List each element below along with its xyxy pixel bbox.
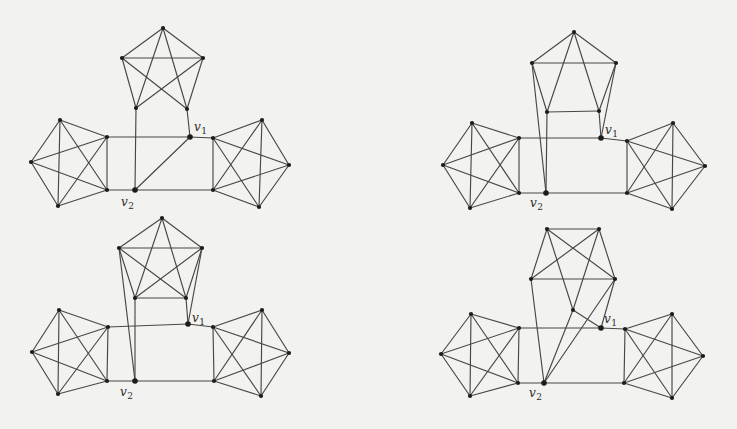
graph-node-rgt_lt xyxy=(623,327,627,331)
graph-edge xyxy=(544,279,615,383)
vertex-label-v2: v2 xyxy=(120,386,133,401)
graph-node-rgt_lb xyxy=(622,381,626,385)
graph-edge xyxy=(574,32,616,63)
graph-edge xyxy=(163,28,187,109)
graph-edge xyxy=(532,63,546,193)
graph-node-top_a xyxy=(572,30,576,34)
graph-edge xyxy=(262,120,289,165)
graph-edge xyxy=(213,190,259,207)
graph-node-rgt_r xyxy=(701,354,705,358)
graph-edge xyxy=(673,123,705,166)
graph-edge xyxy=(471,314,518,383)
graph-edge xyxy=(601,328,625,329)
graph-edge xyxy=(627,123,673,193)
graph-node-lft_rt xyxy=(517,136,521,140)
graph-node-top_tr xyxy=(597,227,601,231)
graph-node-top_ur xyxy=(201,56,205,60)
graph-edge xyxy=(672,123,673,209)
graph-edge xyxy=(213,327,289,353)
graph-edge xyxy=(472,123,519,138)
graph-edge xyxy=(59,310,108,327)
graph-edge xyxy=(31,162,107,190)
graph-edge xyxy=(441,354,518,383)
graph-edge xyxy=(546,112,547,193)
graph-node-rgt_t xyxy=(260,118,264,122)
vertex-label-v1: v1 xyxy=(605,124,618,139)
graph-node-rgt_lb xyxy=(625,191,629,195)
graph-edge xyxy=(119,248,186,298)
graph-node-top_lr xyxy=(185,107,189,111)
graph-edge xyxy=(672,166,705,209)
graph-node-v2 xyxy=(541,380,547,386)
graph-edge xyxy=(624,314,672,383)
graph-edge xyxy=(624,329,625,383)
graph-node-top_ur xyxy=(200,246,204,250)
graph-figure-4 xyxy=(439,227,705,400)
graph-edge xyxy=(213,138,259,207)
graph-edge xyxy=(441,354,470,396)
graph-edge xyxy=(122,28,163,58)
graph-edge xyxy=(625,329,703,356)
graph-edge xyxy=(214,381,261,396)
graph-node-rgt_r xyxy=(703,164,707,168)
graph-edge xyxy=(60,120,107,137)
vertex-label-v1: v1 xyxy=(192,312,205,327)
graph-node-v1 xyxy=(598,325,604,331)
vertex-label-v2: v2 xyxy=(529,387,542,402)
graph-edge xyxy=(441,328,519,354)
graph-edge xyxy=(58,137,107,206)
graph-edge xyxy=(470,138,519,208)
graph-node-top_ll xyxy=(134,106,138,110)
graph-node-lft_rb xyxy=(516,381,520,385)
graph-edge xyxy=(441,314,471,354)
graph-figure-2 xyxy=(441,30,707,211)
graph-edge xyxy=(32,327,108,352)
graph-edge xyxy=(443,138,519,165)
graph-edge xyxy=(625,314,672,329)
graph-node-lft_t xyxy=(58,118,62,122)
graph-edge xyxy=(59,310,107,381)
graph-node-rgt_b xyxy=(257,205,261,209)
graph-edge xyxy=(31,137,107,162)
graph-node-v2 xyxy=(543,190,549,196)
diagram-canvas xyxy=(0,0,737,429)
graph-node-top_a xyxy=(160,216,164,220)
graph-node-rgt_lt xyxy=(625,139,629,143)
graph-node-lft_rb xyxy=(517,191,521,195)
graph-node-top_ll xyxy=(133,296,137,300)
graph-node-rgt_lb xyxy=(211,188,215,192)
graph-node-rgt_lt xyxy=(211,136,215,140)
graph-edge xyxy=(213,138,289,165)
graph-edge xyxy=(119,248,135,298)
graph-edge xyxy=(547,229,615,279)
graph-edge xyxy=(470,193,519,208)
vertex-label-v2: v2 xyxy=(530,197,543,212)
graph-node-lft_b xyxy=(56,392,60,396)
graph-edge xyxy=(162,218,202,248)
graph-edge xyxy=(531,229,547,279)
graph-edge xyxy=(213,120,262,190)
graph-node-top_ul xyxy=(530,61,534,65)
graph-node-lft_rt xyxy=(517,326,521,330)
graph-edge xyxy=(31,120,60,162)
graph-node-lft_l xyxy=(30,350,34,354)
graph-edge xyxy=(187,58,203,109)
graph-edge xyxy=(574,32,599,111)
graph-node-c xyxy=(571,308,575,312)
graph-node-top_bl xyxy=(529,277,533,281)
graph-edge xyxy=(627,166,705,193)
graph-edge xyxy=(32,352,107,381)
graph-edge xyxy=(470,383,518,396)
graph-edge xyxy=(261,353,289,396)
graph-edge xyxy=(122,58,136,108)
graph-edge xyxy=(58,190,107,206)
graph-node-lft_b xyxy=(56,204,60,208)
graph-edge xyxy=(60,120,107,190)
graph-edge xyxy=(259,165,289,207)
graph-edge xyxy=(163,28,203,58)
graph-node-rgt_b xyxy=(670,396,674,400)
graph-node-lft_t xyxy=(470,121,474,125)
graph-node-rgt_r xyxy=(287,163,291,167)
graph-node-v2 xyxy=(132,378,138,384)
graph-edge xyxy=(672,314,703,356)
